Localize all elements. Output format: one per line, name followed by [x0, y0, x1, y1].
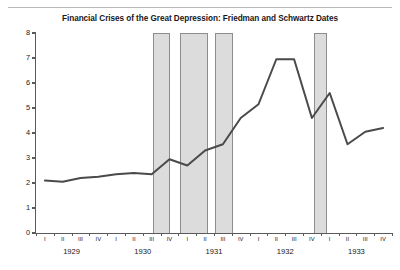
x-quarter-label: II [61, 237, 64, 243]
y-tick-mark [32, 132, 35, 133]
chart-figure: Financial Crises of the Great Depression… [0, 0, 400, 270]
x-quarter-label: I [44, 237, 46, 243]
plot-area [36, 33, 392, 233]
x-quarter-label: III [78, 237, 83, 243]
chart-title: Financial Crises of the Great Depression… [0, 14, 400, 23]
y-tick-label: 6 [8, 79, 30, 86]
x-tick-mark [303, 233, 304, 236]
y-tick-mark [32, 182, 35, 183]
x-tick-mark [54, 233, 55, 236]
y-tick-label: 8 [8, 29, 30, 36]
x-quarter-label: II [132, 237, 135, 243]
x-tick-mark [36, 233, 37, 236]
x-tick-mark [250, 233, 251, 236]
x-quarter-label: I [186, 237, 188, 243]
y-tick-mark [32, 82, 35, 83]
x-tick-mark [178, 233, 179, 236]
x-quarter-label: II [346, 237, 349, 243]
x-tick-mark [143, 233, 144, 236]
x-year-label: 1931 [206, 248, 223, 256]
x-quarter-label: IV [96, 237, 102, 243]
top-divider [8, 7, 392, 8]
x-tick-mark [72, 233, 73, 236]
x-tick-mark [161, 233, 162, 236]
x-quarter-label: IV [380, 237, 386, 243]
x-tick-mark [232, 233, 233, 236]
x-quarter-label: III [220, 237, 225, 243]
y-tick-label: 4 [8, 129, 30, 136]
x-quarter-label: I [258, 237, 260, 243]
x-tick-mark [285, 233, 286, 236]
x-quarter-label: IV [309, 237, 315, 243]
x-tick-mark [125, 233, 126, 236]
x-quarter-label: IV [167, 237, 173, 243]
y-tick-label: 1 [8, 204, 30, 211]
y-tick-label: 5 [8, 104, 30, 111]
x-year-label: 1930 [134, 248, 151, 256]
x-tick-mark [214, 233, 215, 236]
x-tick-mark [356, 233, 357, 236]
x-tick-mark [339, 233, 340, 236]
y-tick-mark [32, 232, 35, 233]
x-tick-mark [374, 233, 375, 236]
x-tick-mark [107, 233, 108, 236]
y-tick-mark [32, 157, 35, 158]
y-tick-label: 0 [8, 229, 30, 236]
x-quarter-label: III [149, 237, 154, 243]
x-tick-mark [267, 233, 268, 236]
y-tick-mark [32, 32, 35, 33]
y-tick-mark [32, 107, 35, 108]
y-tick-mark [32, 57, 35, 58]
x-tick-mark [196, 233, 197, 236]
x-year-label: 1929 [63, 248, 80, 256]
y-tick-label: 3 [8, 154, 30, 161]
x-quarter-label: II [275, 237, 278, 243]
y-tick-mark [32, 207, 35, 208]
x-year-label: 1932 [277, 248, 294, 256]
x-quarter-label: IV [238, 237, 244, 243]
x-quarter-label: III [292, 237, 297, 243]
x-tick-mark [89, 233, 90, 236]
series-line [36, 33, 392, 233]
x-tick-mark [321, 233, 322, 236]
y-tick-label: 2 [8, 179, 30, 186]
y-tick-label: 7 [8, 54, 30, 61]
x-quarter-label: II [203, 237, 206, 243]
x-quarter-label: III [363, 237, 368, 243]
x-quarter-label: I [329, 237, 331, 243]
x-year-label: 1933 [348, 248, 365, 256]
x-tick-mark [392, 233, 393, 236]
x-quarter-label: I [115, 237, 117, 243]
